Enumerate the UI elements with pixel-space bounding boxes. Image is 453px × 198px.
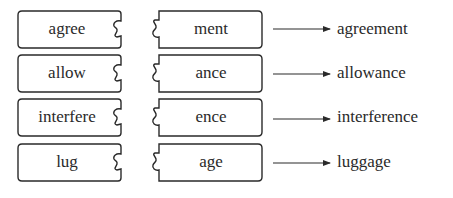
suffix-word-4: age: [166, 152, 256, 172]
word-building-diagram: agree ment agreement allow ance allowanc…: [0, 0, 453, 198]
suffix-word-2: ance: [166, 63, 256, 83]
result-word-1: agreement: [337, 19, 408, 39]
result-word-4: luggage: [337, 152, 391, 172]
stem-word-4: lug: [23, 152, 111, 172]
suffix-word-3: ence: [166, 107, 256, 127]
stem-word-3: interfere: [23, 107, 111, 127]
stem-word-1: agree: [23, 19, 111, 39]
result-word-3: interference: [337, 107, 418, 127]
result-word-2: allowance: [337, 63, 406, 83]
suffix-word-1: ment: [166, 19, 256, 39]
stem-word-2: allow: [23, 63, 111, 83]
